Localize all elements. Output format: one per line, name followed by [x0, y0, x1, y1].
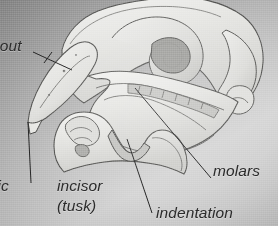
foramen-dot — [63, 70, 66, 73]
label-tusk: (tusk) — [57, 198, 96, 214]
anatomical-figure: nout tic incisor (tusk) molars indentati… — [0, 0, 278, 226]
label-incisor: incisor — [57, 178, 103, 194]
label-indentation: indentation — [156, 205, 233, 221]
label-molars: molars — [213, 163, 260, 179]
label-partial-left: tic — [0, 178, 9, 194]
foramen-dot — [48, 94, 50, 96]
foramen-dot — [75, 54, 77, 56]
label-snout: nout — [0, 38, 22, 54]
skull-illustration — [0, 0, 278, 226]
